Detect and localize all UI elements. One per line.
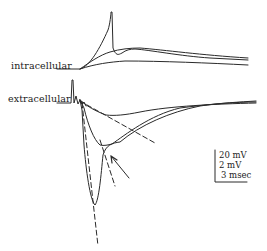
intracellular-traces bbox=[57, 12, 248, 69]
intracellular-label: intracellular bbox=[11, 60, 72, 71]
scale-bar-2mv: 2 mV bbox=[219, 160, 241, 170]
figure: intracellular extracellular 20 mV 2 mV 3… bbox=[0, 0, 267, 251]
scale-bar-3msec: 3 msec bbox=[221, 170, 251, 180]
extracellular-label: extracellular bbox=[8, 93, 71, 104]
traces-plot bbox=[0, 0, 267, 251]
scale-bar-20mv: 20 mV bbox=[219, 150, 247, 160]
arrow-icon bbox=[111, 156, 129, 178]
